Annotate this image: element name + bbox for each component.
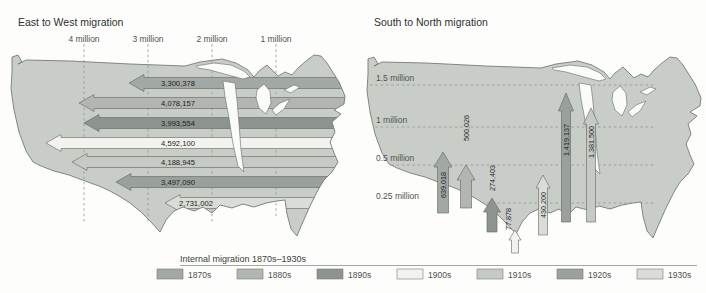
- value-sn-1920s: 1,419,137: [562, 124, 571, 156]
- value-sn-1910s: 1,381,500: [587, 126, 596, 158]
- arrow-south-north-1900s: [509, 230, 521, 253]
- legend-label-1880s: 1880s: [268, 270, 291, 280]
- value-sn-1930s: 430,200: [539, 192, 548, 218]
- legend-label-1920s: 1920s: [588, 270, 611, 280]
- migration-maps-svg: East to West migration 4 million 3 milli…: [0, 0, 706, 293]
- value-sn-1880s: 500,026: [462, 115, 471, 141]
- east-west-map: East to West migration 4 million 3 milli…: [11, 16, 349, 236]
- legend-label-1910s: 1910s: [508, 270, 531, 280]
- value-sn-1890s: 274,403: [488, 165, 497, 191]
- value-1910s: 4,188,945: [161, 158, 195, 167]
- legend-title: Internal migration 1870s–1930s: [180, 254, 307, 264]
- value-1870s: 3,300,378: [161, 79, 195, 88]
- legend-swatch-1890s: [317, 269, 343, 279]
- south-north-map: South to North migration 1.5 million 1 m…: [367, 16, 701, 253]
- east-west-title: East to West migration: [18, 16, 124, 28]
- legend-label-1870s: 1870s: [188, 270, 211, 280]
- tick-2-million: 2 million: [196, 34, 227, 44]
- legend-label-1890s: 1890s: [348, 270, 371, 280]
- legend-swatch-1880s: [237, 269, 263, 279]
- legend-swatch-1900s: [397, 269, 423, 279]
- internal-migration-figure: East to West migration 4 million 3 milli…: [0, 0, 706, 293]
- legend-label-1900s: 1900s: [428, 270, 451, 280]
- east-west-axis-labels: 4 million 3 million 2 million 1 million: [68, 34, 291, 44]
- tick-1-million: 1 million: [260, 34, 291, 44]
- value-1920s: 3,497,090: [161, 178, 195, 187]
- value-1930s: 2,731,002: [179, 199, 213, 208]
- us-map-right-group: 1.5 million 1 million 0.5 million 0.25 m…: [367, 57, 701, 238]
- legend-swatch-1930s: [637, 269, 663, 279]
- value-sn-1900s: 77,878: [504, 208, 513, 230]
- legend-labels: 1870s 1880s 1890s 1900s 1910s 1920s 1930…: [188, 270, 691, 280]
- legend: Internal migration 1870s–1930s 1870s 188…: [157, 254, 697, 280]
- legend-swatch-1920s: [557, 269, 583, 279]
- tick-0point5-million: 0.5 million: [376, 153, 415, 163]
- tick-4-million: 4 million: [68, 34, 99, 44]
- value-1880s: 4,078,157: [161, 99, 195, 108]
- tick-3-million: 3 million: [132, 34, 163, 44]
- value-sn-1870s: 639,018: [439, 172, 448, 198]
- value-1890s: 3,993,554: [161, 119, 195, 128]
- value-1900s: 4,592,100: [161, 139, 195, 148]
- tick-1point5-million: 1.5 million: [376, 73, 415, 83]
- tick-1-million-right: 1 million: [376, 115, 407, 125]
- legend-swatch-1910s: [477, 269, 503, 279]
- tick-0point25-million: 0.25 million: [376, 191, 419, 201]
- legend-label-1930s: 1930s: [668, 270, 691, 280]
- legend-swatch-1870s: [157, 269, 183, 279]
- south-north-title: South to North migration: [374, 16, 488, 28]
